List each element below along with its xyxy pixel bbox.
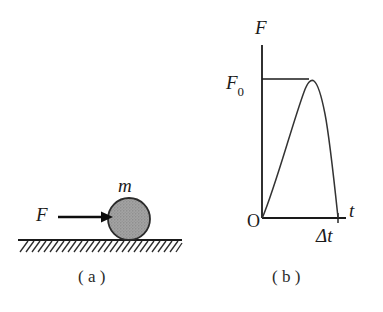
force-label-a: F xyxy=(36,205,48,224)
delta-t-label: Δt xyxy=(316,226,332,245)
y-axis-label: F xyxy=(255,18,267,37)
physics-figure: F m ( a ) F F0 t O Δt ( b ) xyxy=(0,0,383,312)
ground-hatching xyxy=(20,241,182,252)
panel-b-force-time-graph: F F0 t O Δt ( b ) xyxy=(192,0,383,312)
panel-a-block-on-surface: F m ( a ) xyxy=(0,0,192,312)
force-arrow xyxy=(58,212,113,223)
x-axis-label: t xyxy=(349,201,354,220)
caption-a: ( a ) xyxy=(78,268,105,285)
caption-b: ( b ) xyxy=(272,268,300,285)
origin-label: O xyxy=(247,212,260,230)
mass-ball xyxy=(108,198,150,240)
impulse-curve xyxy=(263,80,339,217)
panel-a-drawing xyxy=(0,0,192,312)
panel-b-drawing xyxy=(192,0,383,312)
f0-label: F0 xyxy=(226,73,244,97)
mass-label-m: m xyxy=(118,176,132,195)
f0-label-subscript: 0 xyxy=(238,84,244,99)
f0-label-base: F xyxy=(226,72,238,93)
